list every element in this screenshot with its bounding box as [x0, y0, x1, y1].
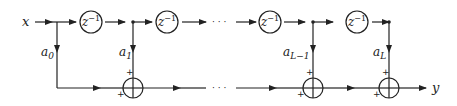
svg-text:+: + [297, 89, 305, 99]
output-label: y [431, 80, 440, 95]
tap-label: a0 a1 aL−1 aL [41, 45, 386, 61]
svg-text:+: + [126, 67, 134, 77]
delay-block: z−1 [346, 11, 368, 33]
svg-text:aL: aL [373, 45, 386, 61]
svg-text:+: + [306, 67, 314, 77]
svg-text:a0: a0 [41, 45, 54, 61]
ellipsis-bottom: · · · [212, 83, 226, 93]
fir-filter-diagram: z−1 z−1 z−1 z−1 ++ ++ ++ · · · · · · x y… [0, 0, 457, 106]
svg-text:+: + [382, 67, 390, 77]
adder-signs: ++ ++ ++ [117, 67, 390, 99]
ellipsis-top: · · · [212, 17, 226, 27]
svg-text:+: + [117, 89, 125, 99]
delay-block: z−1 [259, 11, 281, 33]
delay-block: z−1 [80, 11, 102, 33]
svg-text:a1: a1 [119, 45, 132, 61]
svg-text:+: + [373, 89, 381, 99]
svg-text:aL−1: aL−1 [283, 45, 309, 61]
delay-block: z−1 [156, 11, 178, 33]
input-label: x [22, 14, 30, 29]
